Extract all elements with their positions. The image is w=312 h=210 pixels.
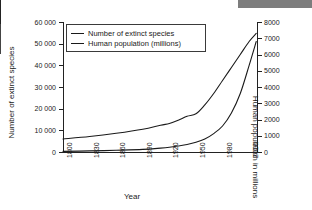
legend-label-extinct-species: Number of extinct species <box>88 29 174 38</box>
right-tick-label: 6000 <box>264 51 280 58</box>
y-axis-title: Number of extinct species <box>7 38 16 148</box>
right-tick-label: 0 <box>264 149 268 156</box>
right-tick <box>258 22 262 23</box>
legend-line-swatch-extinct-species <box>71 33 84 34</box>
left-tick-label: 60 000 <box>0 19 56 26</box>
left-tick-label: 0 <box>0 149 56 156</box>
right-tick <box>258 71 262 72</box>
series-line-extinct-species <box>63 42 256 152</box>
right-tick-label: 8000 <box>264 19 280 26</box>
x-axis-title: Year <box>124 192 140 201</box>
right-tick-label: 1000 <box>264 132 280 139</box>
legend-label-human-population: Human population (millions) <box>88 39 181 48</box>
legend-item-human-population: Human population (millions) <box>71 38 201 48</box>
chart-page: 010 00020 00030 00040 00050 00060 000 01… <box>0 0 312 210</box>
right-tick-label: 7000 <box>264 35 280 42</box>
right-tick-label: 5000 <box>264 67 280 74</box>
dual-axis-line-chart: 010 00020 00030 00040 00050 00060 000 01… <box>0 0 312 210</box>
chart-legend: Number of extinct species Human populati… <box>66 24 206 52</box>
right-tick-label: 3000 <box>264 100 280 107</box>
legend-line-swatch-human-population <box>71 43 84 44</box>
y2-axis-title: Human population in millions <box>251 87 260 207</box>
right-tick-label: 4000 <box>264 84 280 91</box>
right-tick <box>258 38 262 39</box>
legend-item-extinct-species: Number of extinct species <box>71 28 201 38</box>
x-minor-tick <box>0 52 1 54</box>
right-tick-label: 2000 <box>264 116 280 123</box>
right-tick <box>258 55 262 56</box>
